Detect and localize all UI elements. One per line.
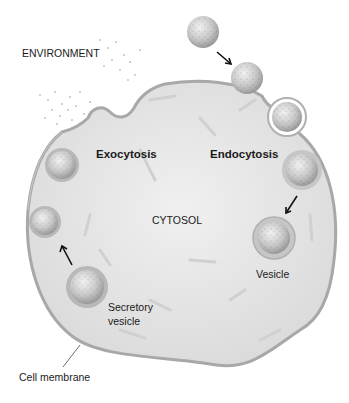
endocytosis-label: Endocytosis (210, 148, 278, 161)
cytosol-label: CYTOSOL (152, 214, 202, 226)
secretory-vesicle-label-line1: Secretory (108, 301, 153, 313)
cell-membrane-label: Cell membrane (19, 371, 90, 383)
exocytosis-label: Exocytosis (96, 148, 157, 161)
cell-diagram (0, 0, 349, 403)
secretory-vesicle (66, 266, 108, 308)
cell-membrane-pointer (63, 345, 80, 367)
vesicle-label: Vesicle (256, 268, 289, 280)
arrow-endo-1 (217, 52, 231, 64)
secretory-vesicle-label-line2: vesicle (108, 315, 140, 327)
environment-label: ENVIRONMENT (22, 47, 100, 59)
